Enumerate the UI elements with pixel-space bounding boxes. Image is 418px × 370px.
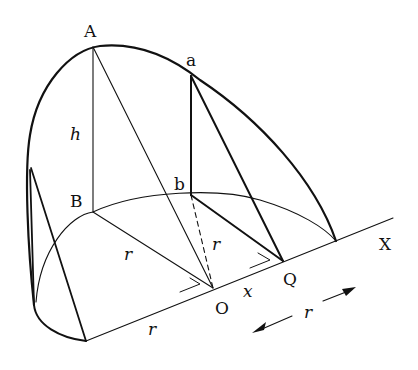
label-b: b xyxy=(174,174,185,194)
arrow-right-head xyxy=(342,287,356,296)
left-lower-arc xyxy=(34,305,86,341)
label-O: O xyxy=(215,298,229,318)
label-r-arrow: r xyxy=(304,302,313,322)
r-arrow-left-shaft xyxy=(262,316,292,329)
label-r-bQ: r xyxy=(212,234,221,254)
arrow-left-head xyxy=(252,322,266,333)
label-r-BO: r xyxy=(124,244,133,264)
label-A: A xyxy=(83,21,97,41)
label-X: X xyxy=(379,234,392,254)
segment-aQ xyxy=(191,76,283,261)
wedge-diagram: A a h B b r r r O x Q X r xyxy=(0,0,418,370)
label-Q: Q xyxy=(283,269,297,289)
right-angle-mark-O xyxy=(180,278,200,292)
label-B: B xyxy=(70,191,83,211)
right-angle-mark-Q xyxy=(250,253,270,268)
r-arrow-right-shaft xyxy=(323,292,346,301)
radius-BO xyxy=(93,212,213,288)
label-r-base: r xyxy=(148,319,157,339)
label-h: h xyxy=(70,124,81,144)
label-a: a xyxy=(186,50,196,70)
label-x: x xyxy=(243,281,253,301)
